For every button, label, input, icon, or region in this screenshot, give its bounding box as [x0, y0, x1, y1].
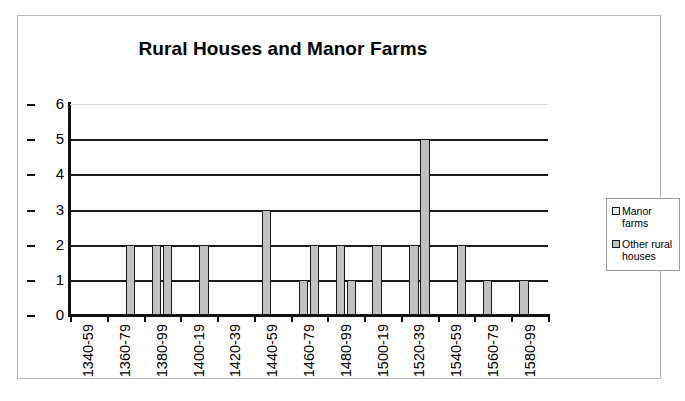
x-tick-label-1380-99: 1380-99: [154, 324, 170, 377]
x-tick-mark-13: [548, 315, 550, 322]
legend-label-other-rural-houses: Other rural houses: [622, 238, 675, 262]
y-tick-mark-2: [27, 245, 35, 247]
y-tick-label-1: 1: [38, 271, 64, 288]
x-tick-label-1360-79: 1360-79: [117, 324, 133, 377]
bar-manor-farms-1440-59: [262, 210, 272, 316]
bar-other-rural-houses-1360-79: [126, 245, 136, 315]
y-tick-label-3: 3: [38, 201, 64, 218]
x-tick-mark-10: [438, 315, 440, 322]
y-axis-tick-labels: 0123456: [34, 104, 64, 315]
x-tick-label-1440-59: 1440-59: [264, 324, 280, 377]
bar-other-rural-houses-1380-99: [163, 245, 173, 315]
y-tick-label-0: 0: [38, 306, 64, 323]
other-rural-houses-swatch-icon: [612, 240, 620, 248]
x-tick-label-1480-99: 1480-99: [338, 324, 354, 377]
x-tick-mark-8: [364, 315, 366, 322]
x-tick-mark-9: [401, 315, 403, 322]
bar-other-rural-houses-1540-59: [457, 245, 467, 315]
x-tick-mark-5: [254, 315, 256, 322]
y-tick-label-4: 4: [38, 165, 64, 182]
x-tick-label-1520-39: 1520-39: [411, 324, 427, 377]
chart-title: Rural Houses and Manor Farms: [18, 38, 548, 60]
x-tick-label-1580-99: 1580-99: [522, 324, 538, 377]
gridline-4: [70, 174, 548, 176]
x-tick-mark-11: [474, 315, 476, 322]
bar-manor-farms-1520-39: [409, 245, 419, 315]
legend-item-manor-farms[interactable]: Manor farms: [612, 205, 675, 229]
x-tick-label-1560-79: 1560-79: [485, 324, 501, 377]
plot-area: [70, 104, 548, 315]
bar-other-rural-houses-1400-19: [199, 245, 209, 315]
x-tick-mark-4: [217, 315, 219, 322]
legend-item-other-rural-houses[interactable]: Other rural houses: [612, 238, 675, 262]
bar-manor-farms-1580-99: [519, 280, 529, 315]
bar-manor-farms-1500-19: [372, 245, 382, 315]
legend-label-manor-farms: Manor farms: [622, 205, 675, 229]
x-tick-mark-3: [180, 315, 182, 322]
x-tick-mark-2: [144, 315, 146, 322]
x-tick-label-1540-59: 1540-59: [448, 324, 464, 377]
bar-manor-farms-1560-79: [483, 280, 493, 315]
x-tick-label-1460-79: 1460-79: [301, 324, 317, 377]
bar-other-rural-houses-1520-39: [420, 139, 430, 315]
bar-manor-farms-1460-79: [299, 280, 309, 315]
bar-other-rural-houses-1480-99: [347, 280, 357, 315]
bar-manor-farms-1480-99: [336, 245, 346, 315]
y-tick-label-2: 2: [38, 236, 64, 253]
chart-legend: Manor farms Other rural houses: [606, 198, 680, 271]
x-tick-mark-7: [327, 315, 329, 322]
y-tick-mark-3: [27, 210, 35, 212]
x-axis-tick-labels: 1340-591360-791380-991400-191420-391440-…: [70, 324, 548, 396]
x-tick-mark-0: [70, 315, 72, 322]
bar-other-rural-houses-1460-79: [310, 245, 320, 315]
y-tick-mark-4: [27, 174, 35, 176]
y-tick-mark-5: [27, 139, 35, 141]
gridline-6: [70, 104, 548, 105]
chart-frame: Rural Houses and Manor Farms 0123456 134…: [17, 15, 661, 379]
x-tick-label-1420-39: 1420-39: [227, 324, 243, 377]
x-tick-mark-6: [291, 315, 293, 322]
y-tick-label-5: 5: [38, 130, 64, 147]
x-tick-label-1500-19: 1500-19: [375, 324, 391, 377]
y-tick-mark-6: [27, 104, 35, 106]
y-tick-mark-0: [27, 315, 35, 317]
x-tick-mark-1: [107, 315, 109, 322]
x-tick-label-1340-59: 1340-59: [80, 324, 96, 377]
gridline-3: [70, 210, 548, 212]
x-tick-mark-12: [511, 315, 513, 322]
gridline-5: [70, 139, 548, 141]
x-tick-label-1400-19: 1400-19: [191, 324, 207, 377]
manor-farms-swatch-icon: [612, 207, 620, 215]
y-tick-mark-1: [27, 280, 35, 282]
bar-manor-farms-1380-99: [152, 245, 162, 315]
y-tick-label-6: 6: [38, 95, 64, 112]
